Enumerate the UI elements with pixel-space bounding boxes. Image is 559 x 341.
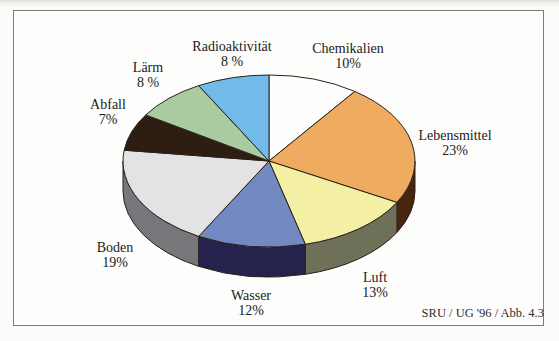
figure-page: Chemikalien 10% Lebensmittel 23% Luft 13… [0, 0, 559, 341]
slice-label-text: Chemikalien [312, 41, 384, 56]
slice-label-pct: 8 % [133, 75, 163, 90]
slice-label-radioaktivitaet: Radioaktivität 8 % [192, 39, 271, 69]
slice-label-text: Boden [97, 240, 134, 255]
slice-label-text: Radioaktivität [192, 39, 271, 54]
slice-label-lebensmittel: Lebensmittel 23% [418, 128, 491, 158]
slice-label-text: Lebensmittel [418, 128, 491, 143]
slice-label-wasser: Wasser 12% [231, 288, 271, 318]
slice-label-pct: 23% [418, 143, 491, 158]
slice-label-abfall: Abfall 7% [90, 97, 126, 127]
slice-label-text: Lärm [133, 60, 163, 75]
slice-label-chemikalien: Chemikalien 10% [312, 41, 384, 71]
slice-label-text: Abfall [90, 97, 126, 112]
slice-label-pct: 12% [231, 303, 271, 318]
slice-label-pct: 8 % [192, 54, 271, 69]
slice-label-pct: 10% [312, 56, 384, 71]
slice-label-laerm: Lärm 8 % [133, 60, 163, 90]
pie-chart [0, 0, 559, 341]
slice-label-pct: 7% [90, 112, 126, 127]
slice-label-text: Luft [362, 270, 388, 285]
slice-label-pct: 13% [362, 285, 388, 300]
figure-caption: SRU / UG '96 / Abb. 4.3 [422, 306, 544, 321]
slice-label-pct: 19% [97, 255, 134, 270]
slice-label-luft: Luft 13% [362, 270, 388, 300]
slice-label-text: Wasser [231, 288, 271, 303]
slice-label-boden: Boden 19% [97, 240, 134, 270]
